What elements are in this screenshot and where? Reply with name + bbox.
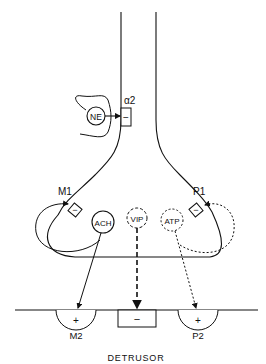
p2-receptor: + P2 bbox=[178, 310, 218, 341]
svg-text:P1: P1 bbox=[193, 186, 206, 197]
ach-circle: ACH bbox=[92, 211, 114, 233]
svg-text:M1: M1 bbox=[58, 186, 72, 197]
vip-receptor: − bbox=[118, 310, 156, 327]
ne-circle: NE bbox=[87, 107, 105, 125]
svg-text:+: + bbox=[73, 315, 79, 326]
svg-text:NE: NE bbox=[90, 112, 102, 122]
detrusor-innervation-diagram: NE − α2 − M1 − P1 ACH VIP ATP bbox=[0, 0, 266, 364]
atp-circle: ATP bbox=[161, 209, 183, 231]
svg-text:−: − bbox=[72, 205, 77, 215]
m2-receptor: + M2 bbox=[56, 310, 96, 341]
atp-feedback-arrow bbox=[180, 204, 234, 253]
svg-text:P2: P2 bbox=[192, 330, 204, 341]
svg-text:−: − bbox=[134, 313, 140, 325]
p1-receptor: − P1 bbox=[189, 186, 206, 217]
svg-text:α2: α2 bbox=[124, 95, 136, 106]
svg-text:−: − bbox=[123, 112, 129, 123]
alpha2-receptor: − α2 bbox=[121, 95, 136, 126]
svg-text:ACH: ACH bbox=[95, 219, 112, 228]
vip-circle: VIP bbox=[127, 208, 147, 228]
svg-text:ATP: ATP bbox=[165, 217, 180, 226]
svg-text:+: + bbox=[195, 315, 201, 326]
svg-text:−: − bbox=[193, 205, 198, 215]
svg-text:M2: M2 bbox=[69, 330, 82, 341]
detrusor-label: DETRUSOR bbox=[108, 353, 165, 363]
svg-text:VIP: VIP bbox=[131, 215, 144, 224]
atp-to-p2-arrow bbox=[175, 231, 196, 308]
ach-to-m2-arrow bbox=[78, 233, 101, 308]
